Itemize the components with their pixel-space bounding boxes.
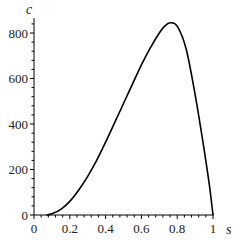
x-tick-label: 1 xyxy=(210,221,217,236)
x-axis-label: s xyxy=(226,222,232,237)
x-tick-label: 0.4 xyxy=(97,221,114,236)
x-tick-label: 0.6 xyxy=(133,221,150,236)
y-tick-label: 200 xyxy=(9,162,29,177)
y-tick-label: 0 xyxy=(22,208,29,223)
x-tick-label: 0.2 xyxy=(62,221,78,236)
x-tick-label: 0.8 xyxy=(169,221,185,236)
y-tick-label: 600 xyxy=(9,71,29,86)
data-curve xyxy=(47,23,213,215)
y-axis-label: c xyxy=(26,2,33,17)
line-chart: 00.20.40.60.810200400600800sc xyxy=(0,0,244,243)
y-tick-label: 800 xyxy=(9,26,29,41)
y-tick-label: 400 xyxy=(9,117,29,132)
x-tick-label: 0 xyxy=(31,221,38,236)
